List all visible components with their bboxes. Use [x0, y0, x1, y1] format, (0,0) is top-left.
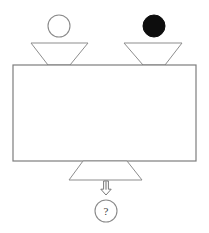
open-circle-particle-icon: [48, 15, 70, 37]
result-question-mark-label: ?: [104, 205, 109, 217]
input-funnel-right: [124, 43, 182, 65]
mixing-vessel-body: [13, 65, 196, 161]
down-arrow-icon: [101, 181, 111, 195]
diagram-canvas: ?: [0, 0, 209, 233]
result-group: ?: [95, 200, 117, 222]
output-funnel: [69, 161, 142, 180]
mixing-diagram: ?: [0, 0, 209, 233]
input-funnel-left: [31, 43, 88, 65]
input-group-right: [124, 15, 182, 65]
input-group-left: [31, 15, 88, 65]
filled-circle-particle-icon: [143, 15, 165, 37]
